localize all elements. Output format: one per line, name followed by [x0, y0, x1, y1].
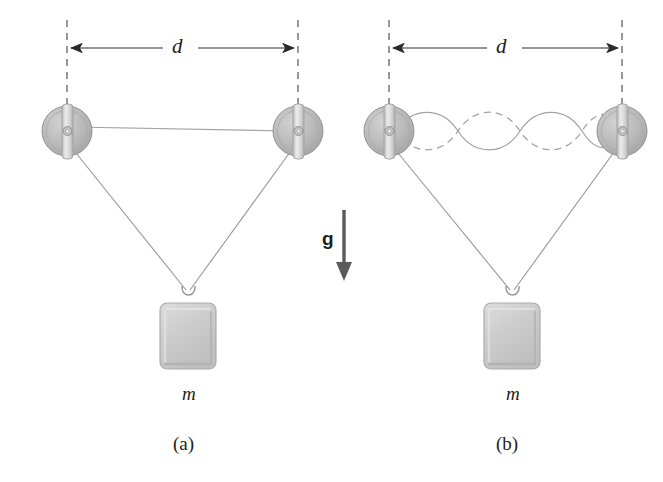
panel-b-pulley-left	[364, 104, 414, 159]
panel-b-mass-label: m	[506, 383, 520, 405]
panel-b-caption: (b)	[496, 433, 518, 455]
panel-b-pulley-right	[597, 104, 647, 159]
panel-a-cord-left	[72, 148, 186, 290]
panel-b-mass-block	[484, 303, 540, 369]
panel-b-cord-left	[394, 148, 510, 290]
physics-figure: d d g m m (a) (b)	[0, 0, 663, 482]
gravity-label: g	[322, 228, 334, 250]
gravity-arrow-head	[336, 262, 352, 281]
panel-a-string-straight	[74, 127, 291, 131]
panel-a-pulley-left	[42, 104, 92, 159]
panel-b-standing-wave-dashed	[396, 112, 616, 150]
panel-b-standing-wave-solid	[396, 112, 616, 150]
panel-a-mass-label: m	[182, 383, 196, 405]
panel-b-cord-right	[514, 148, 617, 290]
panel-a-pulley-right	[273, 104, 323, 159]
panel-a	[42, 20, 323, 369]
panel-a-mass-block	[160, 303, 216, 369]
gravity-arrow	[336, 210, 352, 281]
panel-a-cord-right	[190, 148, 293, 290]
panel-b	[364, 20, 647, 369]
panel-a-caption: (a)	[173, 433, 194, 455]
panel-b-distance-label: d	[496, 34, 507, 59]
panel-a-distance-label: d	[172, 34, 183, 59]
